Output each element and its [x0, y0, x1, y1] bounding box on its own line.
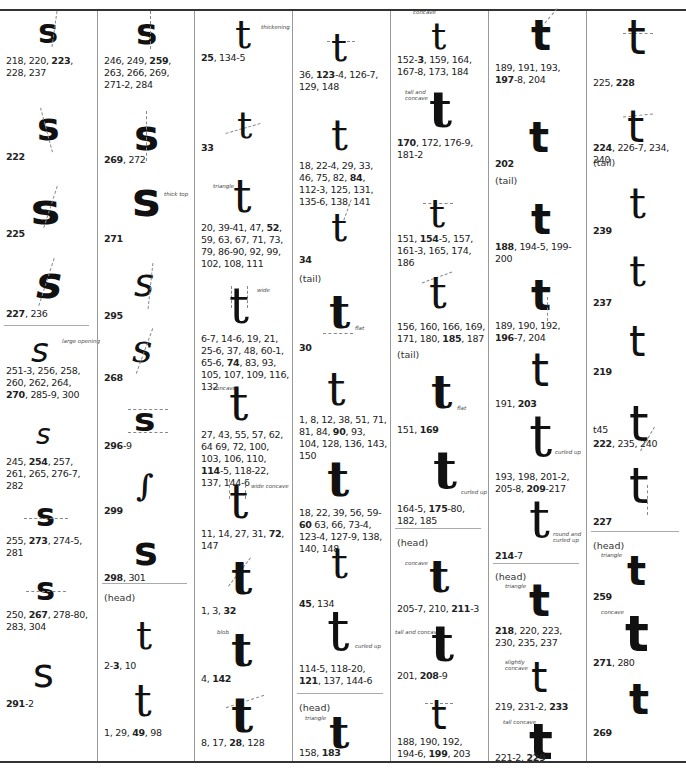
- ref-list: 237: [593, 297, 683, 309]
- glyph-t: t: [235, 14, 251, 54]
- section-label: (head): [397, 537, 428, 548]
- section-label: (tail): [299, 273, 321, 284]
- glyph-t: t: [625, 609, 649, 659]
- ref-list: 246, 249, 259, 263, 266, 269, 271-2, 284: [104, 55, 191, 91]
- ref-list: 158, 183: [299, 747, 387, 759]
- column-4: t 36, 123-4, 126-7, 129, 148 t 18, 22-4,…: [292, 11, 391, 761]
- axis-line: [150, 11, 151, 49]
- glyph-t: t: [531, 347, 549, 393]
- glyph-t: t: [331, 207, 347, 247]
- annotation: wide: [257, 287, 270, 293]
- column-3: t thickening 25, 134-5 t 33 triangle t 2…: [194, 11, 293, 761]
- axis-line: [547, 297, 548, 321]
- ref-list: 227: [593, 516, 683, 528]
- ref-list: 188, 190, 192, 194-6, 199, 203: [397, 736, 485, 760]
- glyph-t: t: [431, 17, 446, 55]
- ref-list: 269: [593, 727, 683, 739]
- ref-list: 188, 194-5, 199-200: [495, 241, 583, 265]
- ref-list: 218, 220, 223, 230, 235, 237: [495, 625, 583, 649]
- section-divider: [395, 528, 481, 529]
- annotation: tall and concave: [405, 89, 427, 101]
- glyph-t: t: [431, 695, 447, 735]
- section-label: (tail): [397, 349, 419, 360]
- glyph-t: t: [529, 493, 550, 545]
- glyph-s: s: [31, 333, 49, 367]
- annotation: thickening: [261, 24, 290, 30]
- ref-list: 18, 22-4, 29, 33, 46, 75, 82, 84, 112-3,…: [299, 160, 387, 208]
- column-2: s 246, 249, 259, 263, 266, 269, 271-2, 2…: [97, 11, 195, 761]
- section-label: (head): [593, 540, 624, 551]
- ref-list: 250, 267, 278-80, 283, 304: [6, 609, 93, 633]
- glyph-s: s: [36, 421, 51, 449]
- ref-list: 201, 208-9: [397, 670, 485, 682]
- ref-list: 2-3, 10: [104, 660, 191, 672]
- annotation: curled up: [355, 643, 381, 649]
- ref-list: 114-5, 118-20, 121, 137, 144-6: [299, 663, 387, 687]
- ref-list: 1, 29, 49, 98: [104, 727, 191, 739]
- ref-list: 214-7: [495, 550, 583, 562]
- glyph-t: t: [331, 115, 348, 157]
- ref-list: 269, 272: [104, 154, 191, 166]
- annotation: blob: [217, 629, 229, 635]
- glyph-t: t: [331, 543, 348, 585]
- ref-list: 8, 17, 28, 128: [201, 737, 289, 749]
- glyph-t: t: [531, 657, 547, 699]
- section-divider: [102, 583, 187, 584]
- glyph-t: t: [231, 691, 253, 739]
- section-label: (head): [299, 702, 330, 713]
- ref-list: 25, 134-5: [201, 52, 289, 64]
- glyph-t: t: [237, 106, 252, 144]
- ref-list: 225222: [6, 151, 93, 163]
- annotation: round and curled up: [553, 531, 583, 543]
- glyph-t: t: [431, 619, 454, 669]
- axis-line: [26, 591, 66, 592]
- ref-list: 151, 169: [397, 424, 485, 436]
- ref-list: 239: [593, 225, 683, 237]
- ref-list: 1, 3, 32: [201, 605, 289, 617]
- ref-list: 33: [201, 142, 289, 154]
- glyph-t: t: [429, 271, 447, 315]
- glyph-t: t: [231, 555, 252, 601]
- ref-list: 202: [495, 158, 583, 170]
- annotation: triangle: [305, 715, 326, 721]
- ref-list: 164-5, 175-80, 182, 185: [397, 503, 485, 527]
- annotation: triangle: [213, 183, 234, 189]
- glyph-t: t: [136, 615, 152, 655]
- glyph-s: s: [136, 14, 157, 50]
- glyph-t: t: [433, 444, 457, 496]
- ref-list: 245, 254, 257, 261, 265, 276-7, 282: [6, 456, 93, 492]
- glyph-t: t: [529, 579, 550, 623]
- column-6: t 189, 191, 193, 197-8, 204 t 202 (tail)…: [488, 11, 587, 761]
- glyph-t: t: [531, 199, 551, 241]
- section-label: (tail): [495, 175, 517, 186]
- section-label: (head): [495, 571, 526, 582]
- glyph-t: t: [529, 407, 552, 465]
- ref-list: 189, 190, 192, 196-7, 204: [495, 320, 583, 344]
- ref-list: 225: [6, 228, 93, 240]
- ref-list: 36, 123-4, 126-7, 129, 148: [299, 69, 387, 93]
- glyph-t: t: [329, 289, 350, 335]
- ref-list: 156, 160, 166, 169, 171, 180, 185, 187: [397, 321, 485, 345]
- glyph-t: t: [531, 15, 551, 57]
- annotation: slightly concave: [505, 659, 529, 671]
- section-divider: [493, 563, 579, 564]
- glyph-t: t: [629, 321, 645, 363]
- ref-list: 30: [299, 342, 387, 354]
- glyph-t: t: [229, 477, 248, 525]
- axis-line: [24, 518, 68, 519]
- glyph-t: t: [627, 551, 646, 591]
- glyph-t: t: [531, 275, 551, 317]
- ref-list: 296-9: [104, 440, 191, 452]
- glyph-t: t: [229, 281, 249, 331]
- ref-list: 225, 228: [593, 77, 683, 89]
- glyph-t: t: [327, 366, 346, 412]
- ref-list: 170, 172, 176-9, 181-2: [397, 137, 485, 161]
- glyph-t: t: [327, 603, 350, 659]
- ref-list: 295: [104, 310, 191, 322]
- glyph-s: s: [134, 531, 158, 571]
- glyph-t: t: [233, 173, 252, 219]
- axis-line: [128, 432, 168, 433]
- annotation: triangle: [505, 583, 526, 589]
- column-7: t 225, 228 t 224, 226-7, 234, 240 (tail)…: [586, 11, 686, 761]
- glyph-s: s: [36, 573, 55, 605]
